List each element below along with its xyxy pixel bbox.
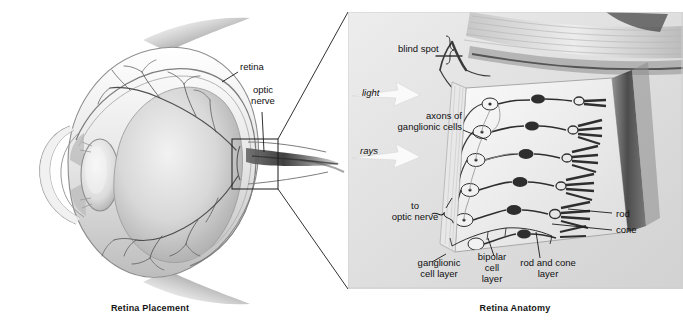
connector-bottom xyxy=(278,189,348,289)
label-blind-spot: blind spot xyxy=(398,43,439,54)
label-rod-and-cone-layer: rod and cone layer xyxy=(512,257,584,279)
label-axons-line1: axons of xyxy=(360,110,462,121)
label-cone: cone xyxy=(616,224,637,235)
bipolar-cell xyxy=(513,177,528,187)
label-optic-nerve: optic nerve xyxy=(242,84,284,106)
optic-nerve-sheath-bottom xyxy=(248,172,328,184)
caption-retina-anatomy: Retina Anatomy xyxy=(400,303,630,313)
label-ganglionic-line1: ganglionic xyxy=(408,257,470,268)
connector-top xyxy=(278,12,348,139)
label-ganglionic-cell-layer: ganglionic cell layer xyxy=(408,257,470,279)
ganglion-cell xyxy=(468,238,484,250)
bipolar-cell xyxy=(531,95,545,104)
figure-root: retina optic nerve blind spot light axon… xyxy=(0,0,683,324)
bipolar-cell xyxy=(519,149,534,159)
label-optic-nerve-line1: optic xyxy=(242,84,284,95)
label-retina: retina xyxy=(240,61,264,72)
label-bipolar-cell-layer: bipolar cell layer xyxy=(470,251,514,284)
label-axons-line2: ganglionic cells xyxy=(360,121,462,132)
label-light: light xyxy=(362,87,379,98)
label-rod-cone-line1: rod and cone xyxy=(512,257,584,268)
label-to-optic-nerve-line1: to xyxy=(384,200,446,211)
bipolar-cell xyxy=(525,122,539,131)
rod-outer-segment xyxy=(584,100,606,101)
label-to-optic-nerve-line2: optic nerve xyxy=(384,211,446,222)
label-axons-of-ganglionic-cells: axons of ganglionic cells xyxy=(360,110,462,132)
label-bipolar-line1: bipolar xyxy=(470,251,514,262)
label-optic-nerve-line2: nerve xyxy=(242,95,284,106)
superior-rectus-muscle xyxy=(143,18,250,52)
label-rod: rod xyxy=(616,208,630,219)
label-to-optic-nerve: to optic nerve xyxy=(384,200,446,222)
bipolar-cell xyxy=(507,205,522,215)
leader-optic-nerve xyxy=(262,112,264,152)
label-bipolar-line2: cell xyxy=(470,262,514,273)
lens-highlight xyxy=(85,146,107,194)
eye-cross-section xyxy=(40,18,344,305)
caption-retina-placement: Retina Placement xyxy=(0,303,300,313)
magnification-connectors xyxy=(278,12,348,289)
label-rays: rays xyxy=(360,145,378,156)
label-ganglionic-line2: cell layer xyxy=(408,268,470,279)
label-bipolar-line3: layer xyxy=(470,273,514,284)
label-rod-cone-line2: layer xyxy=(512,268,584,279)
